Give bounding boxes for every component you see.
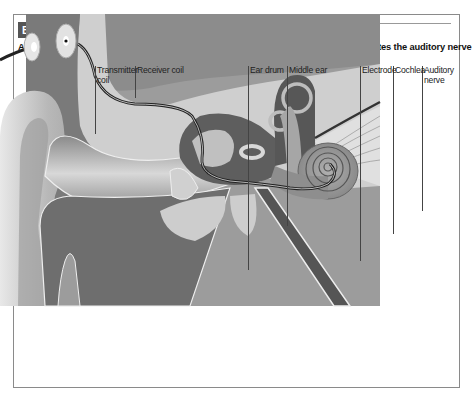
label-text: Transmitter [97,65,138,75]
label-middle-ear: Middle ear [287,65,327,75]
label-electrode: Electrode [360,65,397,75]
label-text: nerve [424,75,454,85]
label-transmitter-coil: Transmitter coil [95,65,138,85]
ear-cross-section-illustration [0,0,382,308]
label-text: Ear drum [250,65,284,75]
label-text: Electrode [362,65,397,75]
leader-cochlea [393,66,394,234]
label-text: Middle ear [289,65,327,75]
label-cochlea: Cochlea [393,65,425,75]
label-receiver-coil: Receiver coil [135,65,184,75]
leader-auditory-nerve [422,66,423,211]
label-text: coil [97,75,138,85]
label-auditory-nerve: Auditory nerve [422,65,454,85]
label-text: Receiver coil [137,65,184,75]
label-ear-drum: Ear drum [248,65,284,75]
leader-ear-drum [248,66,249,270]
label-text: Cochlea [395,65,425,75]
leader-middle-ear [287,66,288,226]
leader-electrode [360,66,361,261]
label-text: Auditory [424,65,454,75]
